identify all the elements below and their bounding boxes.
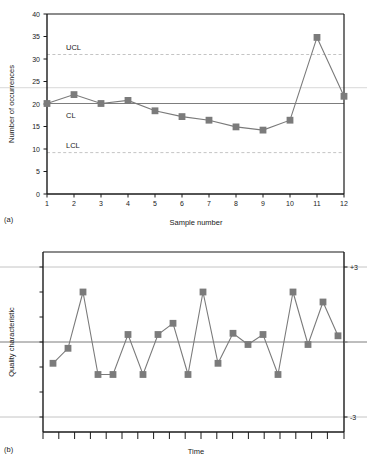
y-tick-label-a-20: 20 [32,101,40,108]
data-point-b-17 [290,289,297,296]
y-axis-title-a: Number of occurrences [7,65,16,143]
data-point-a-10 [287,117,294,124]
data-point-b-14 [245,341,252,348]
chart-b-svg: +3 -3 [0,240,367,471]
x-tick-label-a-1: 1 [45,200,49,207]
plot-area-a [47,14,344,194]
y-axis-title-b: Quality characteristic [7,307,16,377]
data-point-a-11 [314,34,321,41]
control-chart-figure: 40 35 30 25 20 15 10 5 0 [0,0,367,471]
data-point-b-10 [185,371,192,378]
data-point-b-6 [125,331,132,338]
x-tick-label-a-11: 11 [313,200,320,207]
data-point-a-12 [341,93,348,100]
data-point-a-2 [71,91,78,98]
y-tick-label-a-5: 5 [36,168,40,175]
x-ticks-b [43,432,344,439]
data-point-a-7 [206,117,213,124]
lower-limit-label-b: -3 [350,414,356,421]
data-point-b-20 [335,332,342,339]
chart-panel-b: +3 -3 [0,240,367,471]
data-point-a-9 [260,127,267,134]
lcl-label-a: LCL [66,141,80,150]
panel-label-a: (a) [4,215,14,224]
data-point-a-4 [125,97,132,104]
data-point-b-1 [50,360,57,367]
cl-label-a: CL [66,111,76,120]
x-tick-label-a-3: 3 [99,200,103,207]
data-point-a-8 [233,124,240,131]
data-point-b-15 [260,331,267,338]
y-tick-label-a-15: 15 [32,123,40,130]
x-tick-label-a-4: 4 [126,200,130,207]
data-point-b-12 [215,360,222,367]
y-tick-label-a-40: 40 [32,11,40,18]
x-tick-label-a-2: 2 [72,200,76,207]
x-tick-label-a-5: 5 [153,200,157,207]
chart-a-svg: 40 35 30 25 20 15 10 5 0 [0,0,367,240]
data-point-b-3 [80,289,87,296]
data-point-b-9 [170,320,177,327]
x-tick-label-a-7: 7 [207,200,211,207]
data-point-b-2 [65,345,72,352]
data-point-b-18 [305,341,312,348]
data-point-a-6 [179,113,186,120]
x-axis-title-a: Sample number [170,218,223,227]
panel-label-b: (b) [4,445,14,454]
x-tick-label-a-9: 9 [261,200,265,207]
x-tick-label-a-6: 6 [180,200,184,207]
data-point-b-8 [155,331,162,338]
data-point-a-1 [44,100,51,107]
y-tick-label-a-0: 0 [36,191,40,198]
data-point-b-16 [275,371,282,378]
ucl-label-a: UCL [66,43,81,52]
data-point-a-5 [152,107,159,114]
data-point-b-4 [95,371,102,378]
data-point-a-3 [98,100,105,107]
data-point-b-7 [140,371,147,378]
chart-panel-a: 40 35 30 25 20 15 10 5 0 [0,0,367,240]
data-point-b-19 [320,299,327,306]
upper-limit-label-b: +3 [350,264,358,271]
x-tick-label-a-8: 8 [234,200,238,207]
y-tick-label-a-30: 30 [32,56,40,63]
data-point-b-13 [230,330,237,337]
x-tick-label-a-10: 10 [286,200,294,207]
x-axis-title-b: Time [188,447,204,456]
data-point-b-5 [110,371,117,378]
data-point-b-11 [200,289,207,296]
x-tick-label-a-12: 12 [340,200,348,207]
y-tick-label-a-10: 10 [32,146,40,153]
y-tick-label-a-35: 35 [32,33,40,40]
y-tick-label-a-25: 25 [32,78,40,85]
